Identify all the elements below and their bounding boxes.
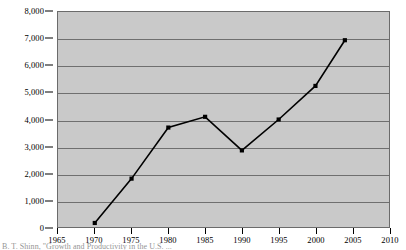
data-point-marker [240,148,244,152]
x-tick-mark [242,228,243,234]
y-tick-mark [45,11,53,12]
x-tick-mark [279,228,280,234]
line-chart-figure: 01,0002,0003,0004,0005,0006,0007,0008,00… [0,0,406,250]
y-tick-mark [45,38,53,39]
y-tick-label: 5,000 [24,87,44,97]
data-point-marker [343,38,347,42]
y-tick-label: 4,000 [24,115,44,125]
y-tick-mark [45,200,53,201]
y-tick-mark [45,173,53,174]
y-tick-mark [45,92,53,93]
data-point-marker [93,221,97,225]
figure-caption-text: B. T. Shinn, "Growth and Productivity in… [2,243,172,250]
x-tick-mark [131,228,132,234]
x-tick-mark [390,228,391,234]
y-axis: 01,0002,0003,0004,0005,0006,0007,0008,00… [0,0,57,240]
y-tick-mark [45,65,53,66]
data-point-marker [277,117,281,121]
x-tick-mark [94,228,95,234]
figure-caption: B. T. Shinn, "Growth and Productivity in… [0,243,406,250]
x-tick-mark [57,228,58,234]
data-point-marker [129,177,133,181]
y-tick-label: 7,000 [24,33,44,43]
x-tick-mark [205,228,206,234]
data-point-marker [203,115,207,119]
data-point-marker [166,125,170,129]
data-line [95,40,345,223]
y-tick-mark [45,119,53,120]
data-line-svg [58,12,389,227]
x-tick-mark [353,228,354,234]
y-tick-label: 1,000 [24,196,44,206]
y-tick-mark [45,146,53,147]
data-markers [93,38,347,225]
data-point-marker [313,84,317,88]
y-tick-label: 3,000 [24,142,44,152]
y-tick-label: 6,000 [24,60,44,70]
x-tick-mark [168,228,169,234]
y-tick-label: 2,000 [24,169,44,179]
y-tick-label: 8,000 [24,6,44,16]
x-tick-mark [316,228,317,234]
plot-area [57,11,390,228]
